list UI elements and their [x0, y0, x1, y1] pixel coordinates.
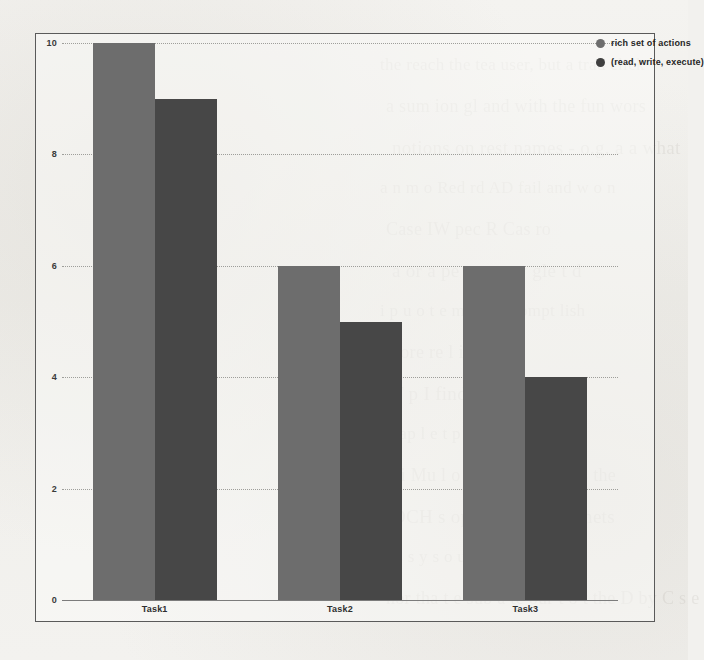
bar-task2-series-0[interactable]	[278, 266, 340, 600]
x-axis-tick-labels: Task1Task2Task3	[62, 604, 618, 624]
x-tick-label-task3: Task3	[512, 604, 538, 614]
bar-task3-series-1[interactable]	[525, 377, 587, 600]
bar-series-layer	[62, 43, 618, 600]
x-tick-label-task1: Task1	[142, 604, 168, 614]
bar-task1-series-0[interactable]	[93, 43, 155, 600]
legend-item-series-1[interactable]: (read, write, execute)	[596, 57, 704, 67]
x-axis-baseline	[62, 600, 618, 601]
bar-group-task1	[93, 43, 217, 600]
legend-marker-icon	[596, 39, 605, 48]
legend-label: (read, write, execute)	[611, 57, 704, 67]
bar-group-task3	[463, 43, 587, 600]
bar-task2-series-1[interactable]	[340, 322, 402, 601]
legend-item-series-0[interactable]: rich set of actions	[596, 38, 704, 48]
y-tick-label-10: 10	[35, 38, 57, 48]
y-tick-label-4: 4	[35, 372, 57, 382]
legend-label: rich set of actions	[611, 38, 691, 48]
legend-marker-icon	[596, 58, 605, 67]
y-tick-label-8: 8	[35, 149, 57, 159]
chart-legend: rich set of actions (read, write, execut…	[596, 38, 704, 67]
y-tick-label-0: 0	[35, 595, 57, 605]
bar-task3-series-0[interactable]	[463, 266, 525, 600]
y-tick-label-6: 6	[35, 261, 57, 271]
bar-group-task2	[278, 43, 402, 600]
x-tick-label-task2: Task2	[327, 604, 353, 614]
bar-task1-series-1[interactable]	[155, 99, 217, 600]
y-axis-ticks: 0246810	[33, 43, 57, 600]
y-tick-label-2: 2	[35, 484, 57, 494]
